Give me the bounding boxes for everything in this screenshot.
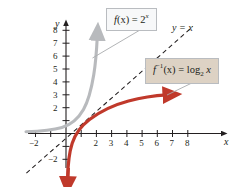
y-tick-label-neg2: −2 xyxy=(48,155,58,164)
y-tick-label-6: 6 xyxy=(53,52,58,61)
y-axis xyxy=(63,25,70,168)
curve-logarithmic xyxy=(68,95,167,181)
identity-line-y-equals-x xyxy=(26,27,193,174)
callout-exponential-exponent: x xyxy=(146,12,149,20)
figure-container: 8 7 6 5 4 3 2 −2 −2 2 3 4 5 6 7 8 y x y … xyxy=(0,0,245,187)
x-tick-label-5: 5 xyxy=(139,139,144,148)
x-tick-label-7: 7 xyxy=(170,139,175,148)
y-tick-label-7: 7 xyxy=(53,39,58,48)
callout-logarithmic-base: 2 xyxy=(200,70,204,78)
y-tick-label-4: 4 xyxy=(53,78,58,87)
y-tick-label-5: 5 xyxy=(53,65,58,74)
callout-exponential-arg: (x) = 2 xyxy=(117,14,146,25)
y-axis-name: y xyxy=(55,19,59,29)
x-tick-label-4: 4 xyxy=(124,139,129,148)
callout-logarithmic-arg: (x) = log xyxy=(163,64,200,75)
y-tick-label-3: 3 xyxy=(53,91,58,100)
y-tick-label-2: 2 xyxy=(53,104,58,113)
x-tick-label-neg2: −2 xyxy=(29,139,39,148)
identity-line-label: y = x xyxy=(172,23,193,33)
x-tick-label-8: 8 xyxy=(185,139,190,148)
callout-logarithmic-var: x xyxy=(206,64,211,75)
curve-exponential xyxy=(26,37,97,132)
x-tick-label-2: 2 xyxy=(94,139,99,148)
callout-exponential: f(x) = 2x xyxy=(106,8,157,31)
x-tick-label-3: 3 xyxy=(109,139,114,148)
x-axis-name: x xyxy=(224,137,228,147)
x-tick-label-6: 6 xyxy=(154,139,159,148)
leader-line-exponential xyxy=(93,30,141,58)
x-axis xyxy=(28,130,222,137)
callout-logarithmic: f−1(x) = log2 x xyxy=(145,58,219,84)
